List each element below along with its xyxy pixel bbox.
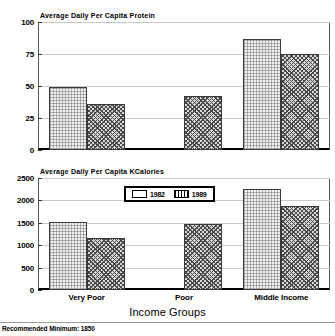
protein-chart-title: Average Daily Per Capita Protein: [40, 12, 155, 19]
bar-very-poor-1982: [49, 87, 87, 150]
legend-swatch-1989: [174, 190, 189, 198]
y-tick-label: 25: [0, 114, 34, 123]
y-tick-mark: [38, 268, 42, 269]
bar-middle-income-1982: [243, 189, 281, 290]
bar-poor-1989: [184, 224, 222, 290]
y-tick-mark: [38, 245, 42, 246]
x-category-poor: Poor: [175, 293, 193, 302]
y-tick-label: 500: [0, 263, 34, 272]
legend-entry-1982: 1982: [132, 190, 165, 198]
y-tick-label: 1000: [0, 241, 34, 250]
y-tick-mark: [38, 178, 42, 179]
bar-middle-income-1989: [281, 206, 319, 290]
protein-chart: Average Daily Per Capita Protein 0255075…: [38, 22, 330, 150]
y-tick-label: 2500: [0, 174, 34, 183]
y-tick-mark: [38, 223, 42, 224]
legend-entry-1989: 1989: [174, 190, 207, 198]
legend-label-1982: 1982: [150, 191, 165, 198]
y-tick-mark: [38, 86, 42, 87]
bar-middle-income-1982: [243, 39, 281, 150]
y-tick-mark: [38, 290, 42, 291]
x-category-middle-income: Middle Income: [254, 293, 308, 302]
gridline: [38, 178, 330, 179]
bar-very-poor-1989: [87, 238, 125, 290]
y-tick-mark: [38, 54, 42, 55]
bar-very-poor-1989: [87, 104, 125, 150]
y-tick-label: 50: [0, 82, 34, 91]
x-axis-title: Income Groups: [0, 306, 335, 318]
y-tick-label: 0: [0, 286, 34, 295]
bar-poor-1989: [184, 96, 222, 150]
bar-very-poor-1982: [49, 222, 87, 290]
footnote-divider: [0, 322, 335, 323]
y-tick-mark: [38, 200, 42, 201]
bar-middle-income-1989: [281, 54, 319, 150]
y-tick-mark: [38, 118, 42, 119]
gridline: [38, 22, 330, 23]
kcalories-chart-title: Average Daily Per Capita KCalories: [40, 168, 164, 175]
y-tick-label: 75: [0, 50, 34, 59]
footnote-recommended-minimum: Recommended Minimum: 1850: [2, 325, 95, 332]
kcalories-chart: Average Daily Per Capita KCalories 05001…: [38, 178, 330, 290]
chart-legend: 1982 1989: [124, 186, 215, 202]
y-tick-label: 0: [0, 146, 34, 155]
y-tick-label: 1500: [0, 218, 34, 227]
x-category-very-poor: Very Poor: [68, 293, 104, 302]
y-tick-label: 2000: [0, 196, 34, 205]
legend-swatch-1982: [132, 190, 147, 198]
legend-label-1989: 1989: [192, 191, 207, 198]
y-tick-label: 100: [0, 18, 34, 27]
y-tick-mark: [38, 150, 42, 151]
y-tick-mark: [38, 22, 42, 23]
